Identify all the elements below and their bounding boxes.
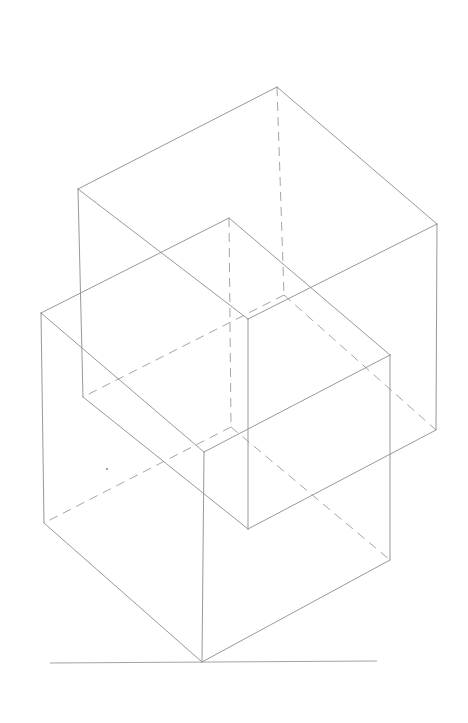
- hidden-edge: [83, 295, 284, 397]
- hidden-edge: [231, 427, 390, 560]
- hidden-edge: [44, 427, 231, 523]
- cube-sketch-canvas: [0, 0, 468, 723]
- pencil-mark: [106, 468, 108, 470]
- visible-edge: [248, 430, 436, 529]
- visible-edge: [83, 397, 248, 529]
- visible-edge: [248, 224, 437, 319]
- stray-marks: [106, 468, 108, 470]
- upper-cube: [78, 87, 437, 529]
- visible-edge: [202, 452, 204, 662]
- visible-edge: [41, 313, 44, 523]
- visible-edge: [204, 355, 390, 452]
- visible-edge: [436, 224, 437, 430]
- visible-edge: [202, 560, 390, 662]
- visible-edge: [44, 523, 202, 662]
- cubes-layer: [41, 87, 437, 662]
- hidden-edge: [284, 295, 436, 430]
- visible-edge: [41, 313, 204, 452]
- visible-edge: [78, 87, 277, 189]
- visible-edge: [78, 189, 248, 319]
- ground-line: [50, 661, 377, 663]
- lower-cube: [41, 218, 390, 662]
- visible-edge: [277, 87, 437, 224]
- visible-edge: [229, 218, 390, 355]
